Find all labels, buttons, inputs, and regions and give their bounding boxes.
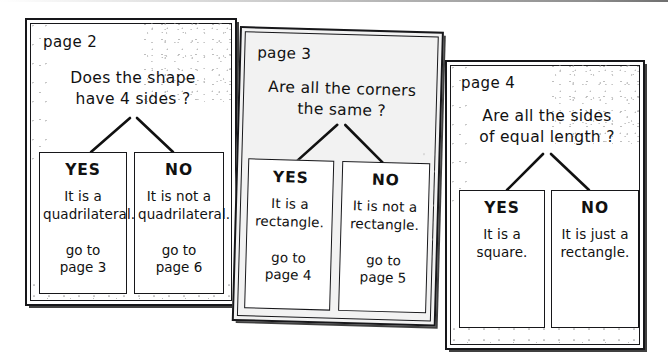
answer-body: It is just a rectangle. [552, 226, 638, 262]
answer-goto: go to page 4 [246, 248, 331, 286]
answer-head: NO [343, 170, 429, 190]
answer-body: It is a quadrilateral. [40, 188, 126, 224]
scan-edge-line [0, 0, 668, 2]
page-card-page3[interactable]: page 3 Are all the corners the same ? YE… [232, 26, 444, 327]
branch-connectors-page4 [447, 152, 647, 194]
answer-goto: go to page 3 [40, 242, 126, 278]
answer-box-yes-page3[interactable]: YES It is a rectangle. go to page 4 [244, 158, 334, 310]
answer-box-no-page2[interactable]: NO It is not a quadrilateral. go to page… [134, 152, 224, 294]
page-label-page4: page 4 [461, 74, 515, 92]
page-card-page4[interactable]: page 4 Are all the sides of equal length… [445, 60, 645, 350]
branch-connectors-page2 [27, 116, 239, 156]
answer-goto: go to page 6 [135, 242, 223, 278]
answer-head: NO [552, 199, 638, 217]
question-text-page3: Are all the corners the same ? [247, 76, 436, 122]
answer-head: NO [135, 161, 223, 179]
page-label-page3: page 3 [257, 43, 312, 63]
answer-head: YES [460, 199, 544, 217]
answer-box-no-page4[interactable]: NO It is just a rectangle. [551, 190, 639, 328]
answer-body: It is a rectangle. [247, 194, 332, 232]
question-text-page2: Does the shape have 4 sides ? [41, 68, 225, 109]
page-label-page2: page 2 [43, 33, 97, 51]
scanned-page-figure: page 2 Does the shape have 4 sides ? YES… [0, 0, 668, 360]
answer-box-yes-page4[interactable]: YES It is a square. [459, 190, 545, 328]
answer-body: It is not a rectangle. [341, 197, 428, 235]
answer-goto: go to page 5 [340, 251, 427, 289]
answer-box-yes-page2[interactable]: YES It is a quadrilateral. go to page 3 [39, 152, 127, 294]
answer-body: It is a square. [460, 226, 544, 262]
answer-head: YES [40, 161, 126, 179]
answer-head: YES [249, 167, 333, 187]
answer-body: It is not a quadrilateral. [135, 188, 223, 224]
page-card-page2[interactable]: page 2 Does the shape have 4 sides ? YES… [25, 18, 237, 306]
question-text-page4: Are all the sides of equal length ? [455, 106, 639, 147]
answer-box-no-page3[interactable]: NO It is not a rectangle. go to page 5 [338, 161, 430, 313]
